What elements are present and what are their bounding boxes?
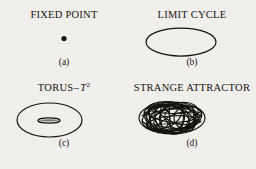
caption-c: (c) xyxy=(0,138,128,148)
limit-cycle-ellipse xyxy=(146,28,216,56)
strange-attractor-tangle xyxy=(139,96,205,141)
torus-hole-shading xyxy=(39,119,59,121)
caption-a: (a) xyxy=(0,57,128,67)
diagram-strange-attractor xyxy=(128,78,256,162)
panel-torus: TORUS–T2 (c) xyxy=(0,78,128,162)
caption-b: (b) xyxy=(128,57,256,67)
fixed-point-dot xyxy=(61,36,66,41)
panel-strange-attractor: STRANGE ATTRACTOR xyxy=(128,78,256,162)
panel-limit-cycle: LIMIT CYCLE (b) xyxy=(128,2,256,86)
attractor-types-figure: FIXED POINT (a) LIMIT CYCLE (b) TORUS–T2 xyxy=(0,0,256,169)
caption-d: (d) xyxy=(128,138,256,148)
panel-fixed-point: FIXED POINT (a) xyxy=(0,2,128,86)
diagram-fixed-point xyxy=(0,2,128,86)
diagram-limit-cycle xyxy=(128,2,256,86)
diagram-torus xyxy=(0,78,128,162)
